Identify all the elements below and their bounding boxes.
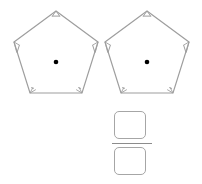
pentagon-figures-row — [0, 0, 202, 108]
answer-fraction — [112, 109, 152, 183]
pentagon-right-center-dot — [145, 60, 150, 65]
worksheet-canvas: 2÷5= — [0, 0, 202, 184]
numerator-answer-box[interactable] — [114, 111, 146, 139]
pentagon-left-svg — [10, 6, 102, 104]
pentagon-right-svg — [101, 6, 193, 104]
fraction-bar — [112, 143, 152, 144]
pentagon-figure-left — [10, 6, 102, 104]
equation-row: 2÷5= — [0, 105, 202, 184]
pentagon-left-outline — [14, 11, 98, 93]
pentagon-left-center-dot — [54, 60, 59, 65]
denominator-answer-box[interactable] — [114, 147, 146, 175]
pentagon-right-outline — [105, 11, 189, 93]
pentagon-figure-right — [101, 6, 193, 104]
